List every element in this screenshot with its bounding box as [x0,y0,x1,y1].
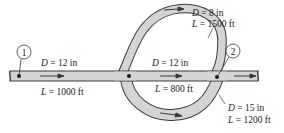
upper-length-label: L = 1500 ft [191,19,235,29]
lower-diameter-label: D = 15 in [227,103,264,113]
lower-leader-line [219,95,225,104]
middle-diameter-label: D = 12 in [151,58,188,68]
svg-text:1: 1 [22,48,27,58]
lower-length-label: L = 1200 ft [227,115,271,125]
inlet-diameter-label: D = 12 in [40,58,77,68]
pipe-network-diagram: 1 2 D = 12 in L = 1000 ft D = 8 in L = 1… [0,0,284,133]
upper-diameter-label: D = 8 in [191,8,224,18]
upper-leader-line [208,28,213,38]
inlet-length-label: L = 1000 ft [40,87,84,97]
svg-text:2: 2 [231,47,236,57]
middle-length-label: L = 800 ft [154,84,193,94]
junction-dot [127,74,131,78]
